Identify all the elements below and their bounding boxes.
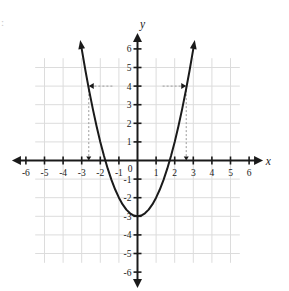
x-axis-tick-label: 2 [172,168,177,178]
graph-figure: : -6-5-4-3-2-1123456654321-1-2-3-4-5-60x… [0,0,289,291]
origin-label: 0 [128,164,133,174]
x-axis-tick-label: 6 [247,168,252,178]
x-axis-tick-label: -5 [41,168,49,178]
x-axis-tick-label: -3 [78,168,86,178]
y-axis-tick-label: -1 [124,175,132,185]
y-axis-tick-label: 6 [127,44,132,54]
y-axis-tick-label: -2 [124,193,132,203]
y-axis-tick-label: -4 [124,230,132,240]
x-axis-tick-label: 3 [191,168,196,178]
x-axis-label: x [265,155,272,167]
y-axis-tick-label: -6 [124,268,132,278]
x-axis-arrow-left [12,156,21,165]
y-axis-tick-label: 3 [127,100,132,110]
x-axis-arrow-right [254,156,263,165]
x-axis-tick-label: -2 [96,168,104,178]
y-axis-tick-label: 2 [127,119,132,129]
y-axis-tick-label: 4 [127,82,132,92]
y-axis-tick-label: 1 [127,137,132,147]
coordinate-plane-svg: -6-5-4-3-2-1123456654321-1-2-3-4-5-60xy [0,0,289,291]
x-axis-tick-label: -4 [59,168,67,178]
y-axis-arrow-up [133,33,142,42]
x-axis-tick-label: 5 [228,168,233,178]
x-axis-tick-label: 1 [154,168,159,178]
y-axis-label: y [139,18,146,31]
curve-end-arrowhead [190,40,197,49]
x-axis-tick-label: 4 [210,168,215,178]
x-axis-tick-label: -1 [115,168,123,178]
y-axis-tick-label: 5 [127,63,132,73]
y-axis-arrow-down [133,279,142,288]
curve-end-arrowhead [78,40,85,49]
y-axis-tick-label: -5 [124,249,132,259]
x-axis-tick-label: -6 [22,168,30,178]
